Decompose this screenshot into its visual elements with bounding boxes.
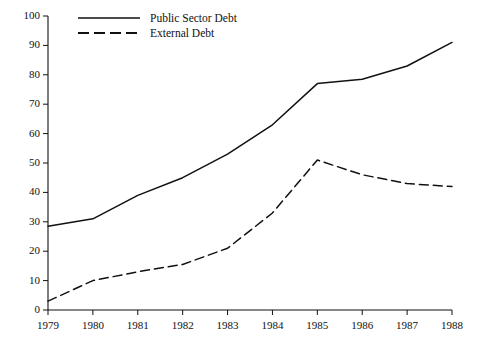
y-tick-label: 90 [6, 39, 40, 50]
x-tick-label: 1983 [203, 320, 253, 331]
x-tick-label: 1980 [68, 320, 118, 331]
x-axis-ticks [48, 310, 452, 315]
x-tick-label: 1984 [247, 320, 297, 331]
y-tick-label: 10 [6, 275, 40, 286]
y-tick-label: 30 [6, 216, 40, 227]
legend-label-public-sector-debt: Public Sector Debt [150, 12, 237, 24]
legend-label-external-debt: External Debt [150, 27, 214, 39]
line-chart-plot [0, 0, 479, 344]
y-tick-label: 40 [6, 186, 40, 197]
series-line-public-sector-debt [48, 42, 452, 226]
chart-container: 0102030405060708090100 19791980198119821… [0, 0, 479, 344]
y-tick-label: 60 [6, 128, 40, 139]
x-tick-label: 1988 [427, 320, 477, 331]
y-tick-label: 100 [6, 10, 40, 21]
y-axis-ticks [43, 16, 48, 310]
y-tick-label: 70 [6, 98, 40, 109]
series-line-external-debt [48, 160, 452, 301]
x-tick-label: 1985 [292, 320, 342, 331]
y-tick-label: 20 [6, 245, 40, 256]
x-tick-label: 1987 [382, 320, 432, 331]
x-tick-label: 1986 [337, 320, 387, 331]
x-tick-label: 1982 [158, 320, 208, 331]
y-tick-label: 0 [6, 304, 40, 315]
y-tick-label: 50 [6, 157, 40, 168]
x-tick-label: 1981 [113, 320, 163, 331]
y-tick-label: 80 [6, 69, 40, 80]
x-tick-label: 1979 [23, 320, 73, 331]
